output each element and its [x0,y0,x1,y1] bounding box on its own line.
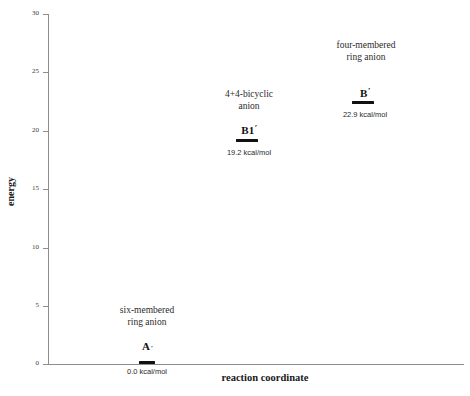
level-b1-caption-line1: 4+4-bicyclic [225,89,273,99]
y-tick-mark [43,364,48,365]
level-b-caption: four-membered ring anion [316,40,416,64]
y-tick-label: 20 [11,127,39,134]
energy-diagram-figure: 30 25 20 15 10 5 0 energy reaction coord… [0,0,470,396]
x-axis-title: reaction coordinate [155,372,375,383]
level-b1-energy-label: 19.2 kcal/mol [207,148,291,157]
y-tick-10: 10 [0,248,48,249]
level-a-symbol-text: A [142,340,150,352]
y-tick-mark [43,306,48,307]
level-b-caption-line2: ring anion [347,52,386,62]
level-b-symbol-text: B [360,87,367,99]
y-tick-30: 30 [0,14,48,15]
y-tick-mark [43,189,48,190]
level-b-bar [352,101,374,104]
y-tick-0: 0 [0,364,48,365]
plot-area: 30 25 20 15 10 5 0 energy reaction coord… [0,0,470,396]
level-b1-symbol: B1′ [227,124,271,136]
level-b1-prime: ′ [255,123,258,133]
y-tick-25: 25 [0,72,48,73]
y-tick-label: 0 [11,360,39,367]
level-b-prime: ′ [368,86,371,96]
level-a-prime: ′ [151,344,153,352]
level-a-symbol: A′ [128,340,166,352]
y-tick-label: 5 [11,302,39,309]
level-a-caption-line1: six-membered [120,305,174,315]
y-tick-mark [43,131,48,132]
y-axis-line [48,14,49,364]
level-b1-symbol-text: B1 [241,124,254,136]
y-tick-label: 30 [11,10,39,17]
level-b-symbol: B′ [343,87,387,99]
y-tick-mark [43,248,48,249]
level-a-bar [139,361,155,364]
y-tick-label: 25 [11,68,39,75]
level-b1-caption-line2: anion [238,101,259,111]
level-b-energy-label: 22.9 kcal/mol [323,110,407,119]
level-b1-caption: 4+4-bicyclic anion [203,89,295,113]
level-a-caption: six-membered ring anion [104,305,190,329]
level-a-caption-line2: ring anion [128,317,167,327]
level-b1-bar [236,139,258,142]
y-tick-20: 20 [0,131,48,132]
y-tick-5: 5 [0,306,48,307]
y-tick-label: 10 [11,244,39,251]
y-axis-title: energy [5,162,16,222]
y-tick-mark [43,14,48,15]
level-a-energy-label: 0.0 kcal/mol [107,367,187,376]
level-b-caption-line1: four-membered [337,40,396,50]
y-tick-mark [43,72,48,73]
x-axis-line [48,364,464,365]
